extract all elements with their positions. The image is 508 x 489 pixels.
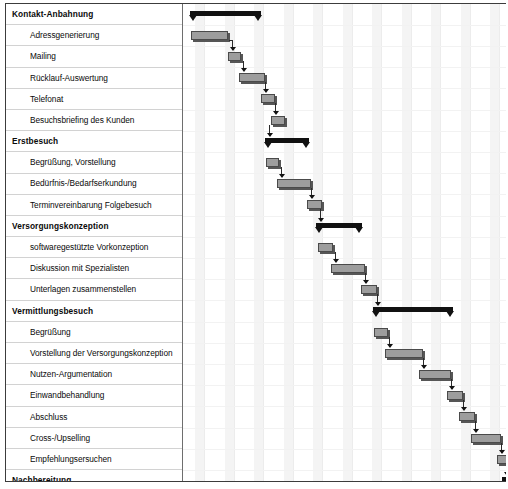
task-row[interactable]: Diskussion mit Spezialisten bbox=[6, 258, 182, 279]
gantt-task-bar[interactable] bbox=[447, 391, 463, 400]
task-label: Rücklauf-Auswertung bbox=[6, 74, 108, 82]
dependency-arrow-icon bbox=[333, 259, 339, 263]
dependency-arrow-icon bbox=[263, 89, 269, 93]
dependency-arrow-icon bbox=[230, 47, 236, 51]
task-row[interactable]: Vorstellung der Versorgungskonzeption bbox=[6, 343, 182, 364]
gantt-task-bar[interactable] bbox=[374, 328, 388, 337]
gantt-task-bar[interactable] bbox=[228, 52, 241, 61]
dependency-arrow-icon bbox=[473, 429, 479, 433]
dependency-arrow-icon bbox=[241, 68, 247, 72]
gantt-task-bar[interactable] bbox=[318, 243, 333, 252]
task-group-row[interactable]: Kontakt-Anbahnung bbox=[6, 4, 182, 25]
task-row[interactable]: Empfehlungsersuchen bbox=[6, 449, 182, 470]
dependency-arrow-icon bbox=[421, 365, 427, 369]
gantt-task-bar[interactable] bbox=[277, 179, 311, 188]
task-row[interactable]: Rücklauf-Auswertung bbox=[6, 68, 182, 89]
gantt-task-bar[interactable] bbox=[191, 31, 228, 40]
dependency-arrow-icon bbox=[461, 407, 467, 411]
task-label: Diskussion mit Spezialisten bbox=[6, 264, 129, 272]
gantt-task-bar[interactable] bbox=[271, 116, 285, 125]
gantt-task-bar[interactable] bbox=[497, 455, 506, 464]
gantt-summary-bar[interactable] bbox=[373, 307, 453, 312]
gantt-task-bar[interactable] bbox=[385, 349, 423, 358]
task-label: Besuchsbriefing des Kunden bbox=[6, 116, 134, 124]
task-row[interactable]: Bedürfnis-/Bedarfserkundung bbox=[6, 174, 182, 195]
gantt-chart: Kontakt-AnbahnungAdressgenerierungMailin… bbox=[0, 0, 508, 489]
task-label: Nutzen-Argumentation bbox=[6, 370, 112, 378]
dependency-arrow-icon bbox=[387, 344, 393, 348]
dependency-arrow-icon bbox=[318, 218, 324, 222]
task-row[interactable]: Telefonat bbox=[6, 89, 182, 110]
dependency-arrow-icon bbox=[375, 302, 381, 306]
gantt-task-bar[interactable] bbox=[261, 94, 275, 103]
task-label: Adressgenerierung bbox=[6, 31, 99, 39]
task-group-row[interactable]: Erstbesuch bbox=[6, 131, 182, 152]
gantt-task-bar[interactable] bbox=[307, 200, 322, 209]
dependency-link bbox=[229, 40, 232, 41]
task-label: Telefonat bbox=[6, 95, 63, 103]
task-label: Erstbesuch bbox=[6, 137, 58, 145]
task-label: Nachbereitung bbox=[6, 476, 71, 481]
task-label: Begrüßung, Vorstellung bbox=[6, 158, 116, 166]
gantt-task-bar[interactable] bbox=[266, 158, 279, 167]
task-row[interactable]: Besuchsbriefing des Kunden bbox=[6, 110, 182, 131]
dependency-arrow-icon bbox=[309, 195, 315, 199]
gantt-summary-bar[interactable] bbox=[316, 223, 362, 228]
task-row[interactable]: Unterlagen zusammenstellen bbox=[6, 279, 182, 300]
task-row[interactable]: Begrüßung, Vorstellung bbox=[6, 152, 182, 173]
task-label: Einwandbehandlung bbox=[6, 391, 104, 399]
task-list-panel[interactable]: Kontakt-AnbahnungAdressgenerierungMailin… bbox=[6, 4, 183, 481]
gantt-task-bar[interactable] bbox=[331, 264, 365, 273]
task-label: Terminvereinbarung Folgebesuch bbox=[6, 201, 152, 209]
task-row[interactable]: Cross-/Upselling bbox=[6, 428, 182, 449]
task-label: Vorstellung der Versorgungskonzeption bbox=[6, 349, 173, 357]
task-row[interactable]: Terminvereinbarung Folgebesuch bbox=[6, 195, 182, 216]
task-row[interactable]: Einwandbehandlung bbox=[6, 385, 182, 406]
task-group-row[interactable]: Nachbereitung bbox=[6, 470, 182, 481]
task-row[interactable]: Adressgenerierung bbox=[6, 25, 182, 46]
gantt-bars-layer[interactable] bbox=[183, 4, 506, 481]
dependency-arrow-icon bbox=[267, 133, 273, 137]
dependency-arrow-icon bbox=[363, 280, 369, 284]
task-group-row[interactable]: Versorgungskonzeption bbox=[6, 216, 182, 237]
dependency-arrow-icon bbox=[504, 472, 506, 476]
gantt-summary-bar[interactable] bbox=[265, 138, 309, 143]
chart-frame: Kontakt-AnbahnungAdressgenerierungMailin… bbox=[5, 3, 506, 482]
task-label: Empfehlungsersuchen bbox=[6, 455, 112, 463]
dependency-arrow-icon bbox=[499, 450, 505, 454]
task-row[interactable]: Begrüßung bbox=[6, 322, 182, 343]
task-row[interactable]: Mailing bbox=[6, 46, 182, 67]
gantt-summary-bar[interactable] bbox=[502, 477, 506, 481]
task-label: Cross-/Upselling bbox=[6, 434, 90, 442]
task-row[interactable]: Nutzen-Argumentation bbox=[6, 364, 182, 385]
dependency-arrow-icon bbox=[273, 111, 279, 115]
gantt-task-bar[interactable] bbox=[459, 412, 475, 421]
timeline-panel[interactable] bbox=[183, 4, 506, 481]
gantt-task-bar[interactable] bbox=[239, 73, 265, 82]
gantt-summary-bar[interactable] bbox=[190, 11, 261, 16]
task-label: Abschluss bbox=[6, 413, 67, 421]
gantt-task-bar[interactable] bbox=[419, 370, 451, 379]
gantt-task-bar[interactable] bbox=[471, 434, 501, 443]
task-label: Mailing bbox=[6, 52, 56, 60]
task-group-row[interactable]: Vermittlungsbesuch bbox=[6, 301, 182, 322]
task-label: Bedürfnis-/Bedarfserkundung bbox=[6, 179, 137, 187]
task-label: Vermittlungsbesuch bbox=[6, 307, 93, 315]
dependency-arrow-icon bbox=[449, 386, 455, 390]
task-label: Begrüßung bbox=[6, 328, 71, 336]
task-label: Kontakt-Anbahnung bbox=[6, 10, 93, 18]
task-label: Versorgungskonzeption bbox=[6, 222, 109, 230]
gantt-task-bar[interactable] bbox=[361, 285, 377, 294]
task-row[interactable]: Abschluss bbox=[6, 407, 182, 428]
task-label: Unterlagen zusammenstellen bbox=[6, 285, 136, 293]
task-row[interactable]: softwaregestützte Vorkonzeption bbox=[6, 237, 182, 258]
task-label: softwaregestützte Vorkonzeption bbox=[6, 243, 148, 251]
dependency-arrow-icon bbox=[279, 174, 285, 178]
